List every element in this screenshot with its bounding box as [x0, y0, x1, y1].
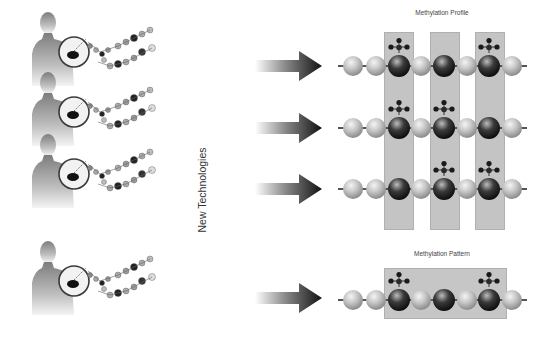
methyl-group-icon: [387, 99, 411, 121]
new-technologies-label: New Technologies: [196, 130, 208, 250]
nucleotide-bead: [366, 118, 386, 138]
nucleotide-bead: [366, 56, 386, 76]
methyl-group-icon: [387, 37, 411, 59]
nucleotide-bead: [411, 56, 431, 76]
methyl-group-icon: [432, 99, 456, 121]
methyl-group-icon: [477, 37, 501, 59]
methylation-pattern-title: Methylation Pattern: [372, 250, 512, 257]
nucleotide-bead: [411, 290, 431, 310]
nucleotide-bead: [411, 118, 431, 138]
arrow-icon: [255, 282, 323, 314]
cpg-bead: [433, 289, 455, 311]
nucleotide-bead: [343, 56, 363, 76]
cpg-bead: [388, 178, 410, 200]
person-with-dna-icon: [0, 235, 170, 315]
nucleotide-bead: [457, 290, 477, 310]
methyl-group-icon: [387, 271, 411, 293]
cpg-bead: [433, 55, 455, 77]
cpg-bead: [478, 117, 500, 139]
nucleotide-bead: [502, 118, 522, 138]
methyl-group-icon: [477, 271, 501, 293]
nucleotide-bead: [343, 118, 363, 138]
nucleotide-bead: [457, 56, 477, 76]
nucleotide-bead: [502, 290, 522, 310]
nucleotide-bead: [502, 56, 522, 76]
nucleotide-bead: [502, 179, 522, 199]
nucleotide-bead: [411, 179, 431, 199]
methyl-group-icon: [432, 160, 456, 182]
methyl-group-icon: [477, 160, 501, 182]
nucleotide-bead: [457, 118, 477, 138]
arrow-icon: [255, 173, 323, 205]
arrow-icon: [255, 112, 323, 144]
arrow-icon: [255, 50, 323, 82]
person-with-dna-icon: [0, 128, 170, 208]
nucleotide-bead: [457, 179, 477, 199]
nucleotide-bead: [366, 290, 386, 310]
nucleotide-bead: [343, 290, 363, 310]
methylation-profile-title: Methylation Profile: [372, 9, 512, 16]
nucleotide-bead: [366, 179, 386, 199]
nucleotide-bead: [343, 179, 363, 199]
